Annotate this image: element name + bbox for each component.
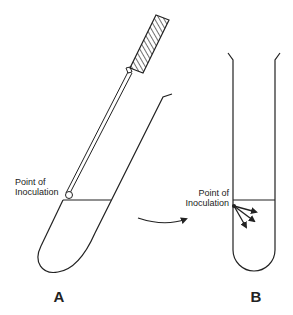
tube-b-annotation-line1: Point of	[198, 188, 229, 198]
needle-shaft	[66, 72, 128, 193]
tube-a	[38, 94, 172, 272]
needle-tip	[66, 192, 73, 199]
diagram-svg: Point of Inoculation A Point of Inoculat…	[0, 0, 293, 315]
tube-a-annotation-line2: Inoculation	[15, 187, 59, 197]
tube-b-annotation-line2: Inoculation	[185, 198, 229, 208]
tube-a-bottom	[38, 233, 95, 272]
tube-b-right-wall	[275, 53, 280, 250]
needle-handle	[130, 15, 169, 73]
tube-b-label: B	[251, 288, 262, 305]
spread-arrows-icon	[232, 204, 256, 227]
tube-a-label: A	[54, 288, 65, 305]
inoculating-needle-icon	[66, 15, 170, 199]
diagram-canvas: Point of Inoculation A Point of Inoculat…	[0, 0, 293, 315]
tube-a-annotation-line1: Point of	[15, 177, 46, 187]
tube-a-left-wall	[41, 200, 63, 246]
tube-b	[228, 53, 280, 271]
tube-b-bottom	[233, 250, 275, 271]
tube-b-left-wall	[228, 53, 233, 250]
curved-arrow-icon	[138, 218, 186, 223]
